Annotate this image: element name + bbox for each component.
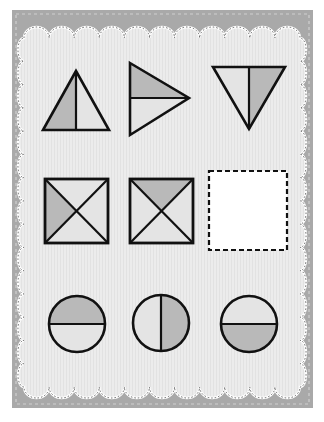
answer-box[interactable] xyxy=(209,171,287,250)
circle-right-shaded xyxy=(133,295,189,351)
worksheet xyxy=(0,0,324,422)
circle-top-shaded xyxy=(49,296,105,352)
square-left-shaded xyxy=(45,179,108,243)
square-top-shaded xyxy=(130,179,193,243)
circle-bottom-shaded xyxy=(221,296,277,352)
